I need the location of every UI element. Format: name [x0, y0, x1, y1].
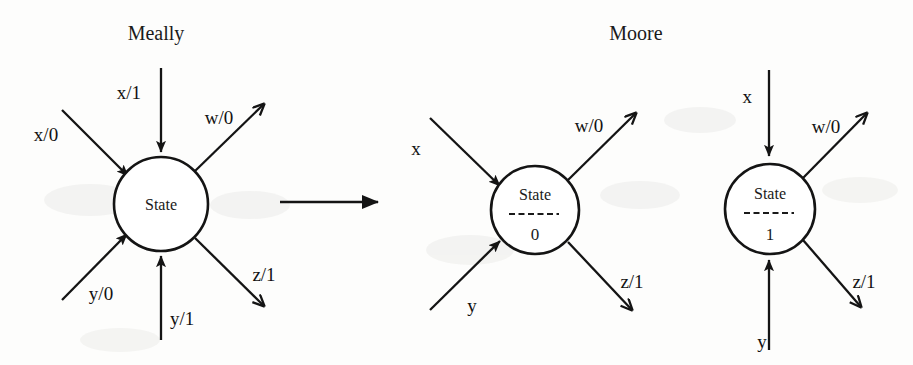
- title-mealy: Meally: [128, 22, 185, 45]
- mealy-in-upper-left: x/0: [34, 110, 128, 176]
- mealy-out-upper-right: w/0: [195, 104, 264, 171]
- moore0-state-label: State: [519, 186, 551, 203]
- moore1-out-upper-right: w/0: [803, 113, 867, 178]
- state-machine-diagram: Meally Moore x/1 x/0 y/0 y/1: [0, 0, 913, 365]
- moore0-output-value: 0: [531, 225, 540, 244]
- mealy-in-top: x/1: [117, 68, 161, 152]
- moore1-in-top-label: x: [743, 86, 753, 107]
- mealy-in-lower-left: y/0: [62, 234, 127, 304]
- moore0-out-upper-right-label: w/0: [575, 115, 604, 136]
- moore0-in-lower-left-label: y: [467, 295, 477, 316]
- moore0-out-upper-right: w/0: [568, 113, 636, 180]
- mealy-out-upper-right-label: w/0: [205, 107, 234, 128]
- mealy-out-lower-right: z/1: [195, 238, 276, 306]
- moore0-out-lower-right: z/1: [568, 242, 644, 310]
- moore1-output-value: 1: [766, 225, 775, 244]
- moore0-in-upper-left: x: [411, 118, 500, 186]
- moore1-out-lower-right: z/1: [803, 240, 876, 307]
- mealy-in-bottom-label: y/1: [170, 308, 194, 329]
- title-moore: Moore: [609, 22, 662, 44]
- moore1-in-bottom-label: y: [757, 331, 767, 352]
- mealy-in-upper-left-label: x/0: [34, 124, 58, 145]
- moore0-out-lower-right-label: z/1: [620, 271, 643, 292]
- diagram-canvas: Meally Moore x/1 x/0 y/0 y/1: [0, 0, 913, 365]
- moore0-in-upper-left-label: x: [411, 138, 421, 159]
- mealy-in-lower-left-label: y/0: [89, 283, 113, 304]
- moore1-in-top: x: [743, 70, 770, 156]
- moore1-state-label: State: [754, 185, 786, 202]
- moore-machine-1: x y w/0 z/1 State 1: [725, 70, 876, 352]
- moore-machine-0: x y w/0 z/1 State 0: [411, 113, 643, 316]
- mealy-state-label: State: [145, 196, 177, 213]
- mealy-in-bottom: y/1: [161, 256, 194, 340]
- moore1-out-upper-right-label: w/0: [812, 116, 841, 137]
- mealy-out-lower-right-label: z/1: [252, 264, 275, 285]
- mealy-in-top-label: x/1: [117, 82, 141, 103]
- moore1-out-lower-right-label: z/1: [852, 271, 875, 292]
- moore1-in-bottom: y: [757, 260, 769, 352]
